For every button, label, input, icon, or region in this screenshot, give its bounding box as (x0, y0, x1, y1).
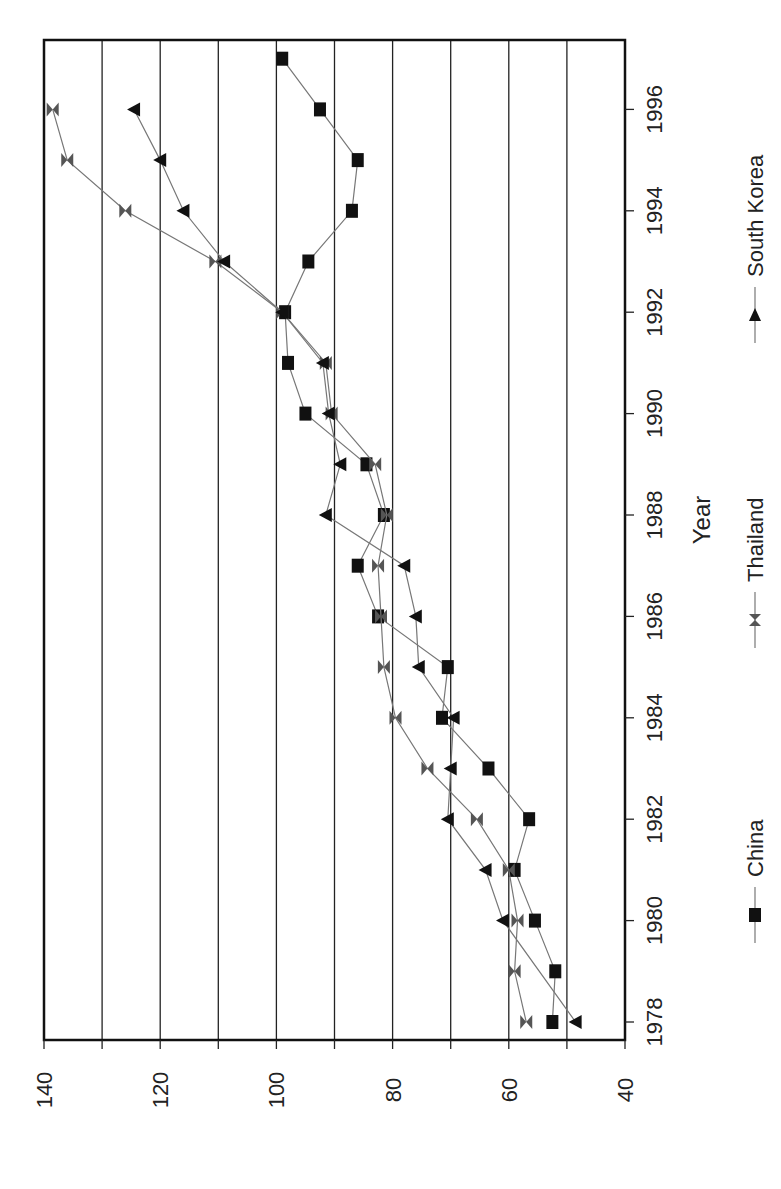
triangle-marker (397, 559, 410, 573)
bowtie-marker (369, 457, 381, 471)
bowtie-marker (390, 711, 402, 725)
series-china (276, 52, 561, 1029)
square-icon (749, 908, 761, 922)
legend-item-south-korea: South Korea (743, 154, 768, 343)
legend-item-china: China (743, 819, 768, 943)
square-marker (523, 812, 535, 826)
square-marker (482, 762, 494, 776)
square-marker (276, 52, 288, 66)
triangle-marker (316, 356, 329, 370)
square-marker (282, 356, 294, 370)
legend-item-thailand: Thailand (743, 498, 768, 648)
x-tick-label: 1996 (642, 85, 667, 134)
legend-label: China (743, 819, 768, 877)
square-marker (346, 204, 358, 218)
x-tick-label: 1988 (642, 491, 667, 540)
legend: ChinaThailandSouth Korea (743, 154, 768, 943)
x-tick-label: 1992 (642, 288, 667, 337)
triangle-marker (127, 102, 140, 116)
square-marker (352, 153, 364, 167)
x-tick-label: 1980 (642, 896, 667, 945)
x-tick-label: 1984 (642, 693, 667, 742)
triangle-icon (749, 308, 761, 321)
square-marker (442, 660, 454, 674)
y-tick-label: 40 (613, 1078, 638, 1102)
legend-label: Thailand (743, 498, 768, 582)
square-marker (549, 964, 561, 978)
triangle-marker (441, 812, 454, 826)
y-tick-label: 100 (264, 1072, 289, 1109)
triangle-marker (569, 1015, 582, 1029)
y-tick-label: 80 (381, 1078, 406, 1102)
y-tick-label: 60 (497, 1078, 522, 1102)
value-axis: 406080100120140 (32, 1040, 638, 1108)
x-axis-title: Year (688, 496, 715, 545)
square-marker (529, 914, 541, 928)
bowtie-marker (119, 204, 131, 218)
square-marker (299, 407, 311, 421)
triangle-marker (319, 508, 332, 522)
x-tick-label: 1986 (642, 592, 667, 641)
y-tick-label: 140 (32, 1072, 57, 1109)
square-marker (314, 102, 326, 116)
triangle-marker (479, 863, 492, 877)
triangle-marker (217, 255, 230, 269)
bowtie-marker (47, 102, 59, 116)
square-marker (546, 1015, 558, 1029)
bowtie-marker (520, 1015, 532, 1029)
square-marker (302, 255, 314, 269)
series-group (47, 52, 582, 1029)
x-tick-label: 1990 (642, 389, 667, 438)
y-tick-label: 120 (148, 1072, 173, 1109)
line-chart: 406080100120140 197819801982198419861988… (0, 0, 781, 1189)
year-axis: 1978198019821984198619881990199219941996 (625, 85, 667, 1047)
series-thailand (47, 102, 533, 1029)
x-tick-label: 1978 (642, 998, 667, 1047)
triangle-marker (496, 914, 509, 928)
x-tick-label: 1994 (642, 186, 667, 235)
x-tick-label: 1982 (642, 795, 667, 844)
triangle-marker (176, 204, 189, 218)
triangle-marker (409, 609, 422, 623)
triangle-marker (333, 457, 346, 471)
legend-label: South Korea (743, 154, 768, 277)
square-marker (352, 559, 364, 573)
square-marker (436, 711, 448, 725)
gridlines (102, 40, 567, 1040)
bowtie-marker (61, 153, 73, 167)
